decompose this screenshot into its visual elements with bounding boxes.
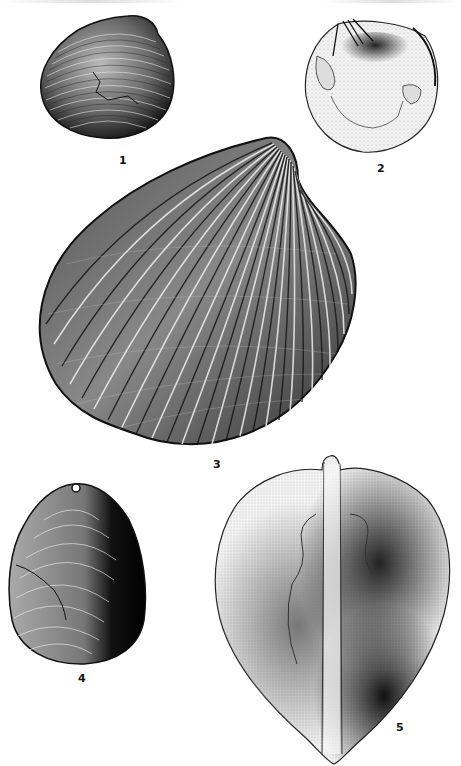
- figure-1-clam-exterior: [38, 12, 180, 140]
- figure-3-ribbed-valve-exterior: [36, 134, 362, 452]
- figure-4-ovate-valve-exterior: [4, 480, 150, 666]
- fossil-plate: 1 2: [0, 0, 461, 766]
- figure-5-heart-shaped-bivalve: [212, 454, 454, 766]
- figure-2-label: 2: [377, 163, 385, 174]
- figure-4-label: 4: [78, 673, 86, 684]
- figure-5-label: 5: [396, 722, 404, 733]
- cropped-header-edge: [0, 0, 461, 3]
